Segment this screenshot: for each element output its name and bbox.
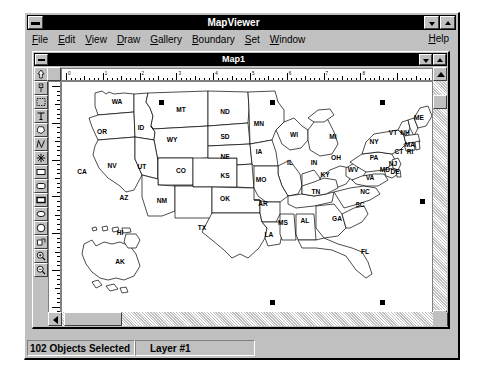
selection-handle[interactable] xyxy=(380,300,385,305)
state-label-va: VA xyxy=(366,174,375,181)
svg-text:7: 7 xyxy=(326,71,329,76)
vertical-scroll-track[interactable] xyxy=(433,81,447,310)
scrollbar-corner xyxy=(433,312,447,326)
minimize-icon xyxy=(423,59,429,63)
polygon-tool[interactable] xyxy=(34,123,48,137)
scroll-left-button[interactable] xyxy=(48,312,62,326)
vertical-scroll-thumb[interactable] xyxy=(433,95,447,109)
rectangle-tool[interactable] xyxy=(34,165,48,179)
menu-edit[interactable]: Edit xyxy=(53,32,80,47)
maximize-icon xyxy=(437,58,443,62)
state-label-ca: CA xyxy=(77,168,87,175)
minimize-button[interactable] xyxy=(424,16,439,29)
maximize-icon xyxy=(445,21,451,25)
ellipse-tool[interactable] xyxy=(34,207,48,221)
ruler-origin-button[interactable] xyxy=(47,67,61,81)
map-child-window: Map1 xyxy=(32,51,450,329)
state-label-tn: TN xyxy=(312,188,321,195)
status-objects-selected: 102 Objects Selected xyxy=(27,340,135,356)
svg-text:8: 8 xyxy=(362,71,365,76)
selection-handle[interactable] xyxy=(380,100,385,105)
svg-text:0: 0 xyxy=(68,71,71,76)
horizontal-ruler: 012345678 xyxy=(61,68,433,81)
state-label-il: IL xyxy=(287,159,293,166)
state-label-ri: RI xyxy=(407,148,414,155)
pointer-tool[interactable] xyxy=(34,67,48,81)
state-label-in: IN xyxy=(311,159,318,166)
arc-shape-tool[interactable] xyxy=(34,235,48,249)
horizontal-scrollbar[interactable] xyxy=(48,312,448,326)
scroll-left-arrow-icon xyxy=(53,316,58,324)
state-label-ky: KY xyxy=(320,171,330,178)
menu-draw[interactable]: Draw xyxy=(112,32,145,47)
system-menu-icon[interactable] xyxy=(28,16,43,29)
selection-handle[interactable] xyxy=(270,300,275,305)
state-label-mt: MT xyxy=(176,106,186,113)
text-tool[interactable] xyxy=(34,109,48,123)
state-label-co: CO xyxy=(176,167,186,174)
menu-boundary[interactable]: Boundary xyxy=(187,32,240,47)
state-label-la: LA xyxy=(265,231,274,238)
state-label-nd: ND xyxy=(220,108,230,115)
selection-handle[interactable] xyxy=(159,100,164,105)
state-label-ne: NE xyxy=(220,153,230,160)
menu-bar: File Edit View Draw Gallery Boundary Set… xyxy=(27,31,456,48)
map-minimize-button[interactable] xyxy=(419,54,432,65)
symbol-tool[interactable] xyxy=(34,81,48,95)
filled-rect-tool[interactable] xyxy=(34,193,48,207)
menu-help[interactable]: Help xyxy=(423,31,454,46)
menu-view[interactable]: View xyxy=(80,32,112,47)
state-label-vt: VT xyxy=(389,129,397,136)
map-canvas[interactable]: WAORIDMTNDMNWIMIMEVTNHNYMACTRISDWYIAILIN… xyxy=(61,81,433,324)
system-menu-icon[interactable] xyxy=(35,54,48,65)
state-label-ma: MA xyxy=(405,141,415,148)
window-control-buttons xyxy=(424,16,455,29)
state-label-de: DE xyxy=(390,168,400,175)
zoom-out-tool[interactable] xyxy=(34,263,48,277)
state-label-pa: PA xyxy=(370,154,379,161)
state-label-mo: MO xyxy=(256,176,267,183)
status-filler xyxy=(255,340,456,356)
minimize-icon xyxy=(429,22,435,26)
state-label-nc: NC xyxy=(360,188,370,195)
horizontal-scroll-thumb[interactable] xyxy=(64,312,122,326)
vertical-ruler xyxy=(48,81,61,324)
state-label-ct: CT xyxy=(395,148,404,155)
maximize-button[interactable] xyxy=(440,16,455,29)
state-label-nm: NM xyxy=(157,197,168,204)
svg-text:3: 3 xyxy=(178,71,181,76)
symbol-star-tool[interactable] xyxy=(34,151,48,165)
state-label-wy: WY xyxy=(167,136,178,143)
menu-set[interactable]: Set xyxy=(240,32,265,47)
window-titlebar: MapViewer xyxy=(27,15,456,30)
state-label-ms: MS xyxy=(278,219,288,226)
map-maximize-button[interactable] xyxy=(433,54,446,65)
application-window: MapViewer File Edit View Draw Gallery Bo… xyxy=(24,12,460,360)
state-label-oh: OH xyxy=(331,154,341,161)
map-window-titlebar: Map1 xyxy=(34,53,447,66)
menu-gallery[interactable]: Gallery xyxy=(145,32,187,47)
state-label-az: AZ xyxy=(120,194,129,201)
state-label-sc: SC xyxy=(355,201,364,208)
svg-text:5: 5 xyxy=(252,71,255,76)
menu-window[interactable]: Window xyxy=(265,32,311,47)
vertical-scrollbar[interactable] xyxy=(433,67,447,324)
scroll-up-button[interactable] xyxy=(433,67,447,81)
menu-file[interactable]: File xyxy=(27,32,53,47)
rounded-rect-tool[interactable] xyxy=(34,179,48,193)
marquee-select-tool[interactable] xyxy=(34,95,48,109)
circle-tool[interactable] xyxy=(34,221,48,235)
svg-text:4: 4 xyxy=(215,71,218,76)
state-label-id: ID xyxy=(138,124,145,131)
state-label-nh: NH xyxy=(400,129,410,136)
selection-handle[interactable] xyxy=(420,199,425,204)
state-label-ia: IA xyxy=(256,148,263,155)
zoom-in-tool[interactable] xyxy=(34,249,48,263)
svg-text:6: 6 xyxy=(289,71,292,76)
state-label-me: ME xyxy=(414,114,424,121)
selection-handle[interactable] xyxy=(270,100,275,105)
state-label-ok: OK xyxy=(220,195,230,202)
tool-palette xyxy=(34,67,48,324)
status-bar: 102 Objects Selected Layer #1 xyxy=(27,340,456,356)
polyline-tool[interactable] xyxy=(34,137,48,151)
